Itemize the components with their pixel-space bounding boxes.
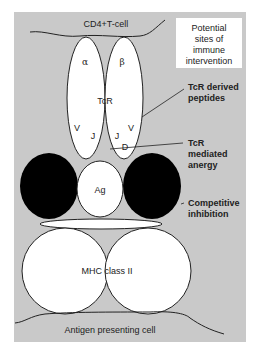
intervention-peptides-line-2: peptides	[188, 93, 225, 103]
alpha-j-label: J	[91, 131, 96, 141]
immune-intervention-diagram: CD4+T-cell Potential sites of immune int…	[0, 0, 257, 355]
legend-line-1: Potential	[191, 23, 226, 33]
intervention-competitive-line-2: inhibition	[188, 209, 229, 219]
legend-line-2: sites of	[195, 34, 224, 44]
antigen-label: Ag	[94, 185, 105, 195]
tcr-label: TcR	[97, 96, 113, 106]
alpha-label: α	[82, 57, 88, 67]
beta-j-label: J	[115, 131, 120, 141]
mhc-label: MHC class II	[81, 266, 132, 276]
legend-line-4: intervention	[186, 56, 233, 66]
peptide-groove	[40, 219, 162, 229]
beta-v-label: V	[128, 123, 134, 133]
apc-label: Antigen presenting cell	[64, 325, 155, 335]
intervention-peptides-line-1: TcR derived	[188, 82, 239, 92]
competitor-left	[20, 153, 78, 219]
beta-label: β	[119, 57, 124, 67]
beta-d-label: D	[122, 142, 129, 152]
competitor-right	[123, 153, 181, 219]
intervention-anergy-line-3: anergy	[188, 160, 218, 170]
alpha-v-label: V	[74, 123, 80, 133]
intervention-competitive-line-1: Competitive	[188, 198, 240, 208]
intervention-anergy-line-2: mediated	[188, 149, 228, 159]
t-cell-label: CD4+T-cell	[84, 19, 129, 29]
intervention-anergy-line-1: TcR	[188, 138, 205, 148]
legend-line-3: immune	[193, 45, 225, 55]
